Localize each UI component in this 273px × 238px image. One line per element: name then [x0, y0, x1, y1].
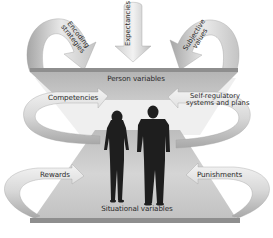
diagram-graphics	[0, 0, 273, 238]
expectancies-label: Expectancies	[125, 1, 132, 46]
expectancies-arrow	[115, 2, 151, 62]
person-situation-diagram: Person variables Situational variables E…	[0, 0, 273, 238]
punishments-label: Punishments	[197, 171, 242, 178]
self-regulatory-label: Self-regulatory systems and plans	[186, 93, 249, 107]
rewards-label: Rewards	[40, 171, 70, 178]
competencies-label: Competencies	[48, 94, 98, 101]
situational-variables-slab	[30, 218, 240, 223]
situational-variables-label: Situational variables	[101, 205, 172, 212]
self-regulatory-label-line2: systems and plans	[186, 100, 249, 107]
person-variables-label: Person variables	[107, 75, 165, 82]
